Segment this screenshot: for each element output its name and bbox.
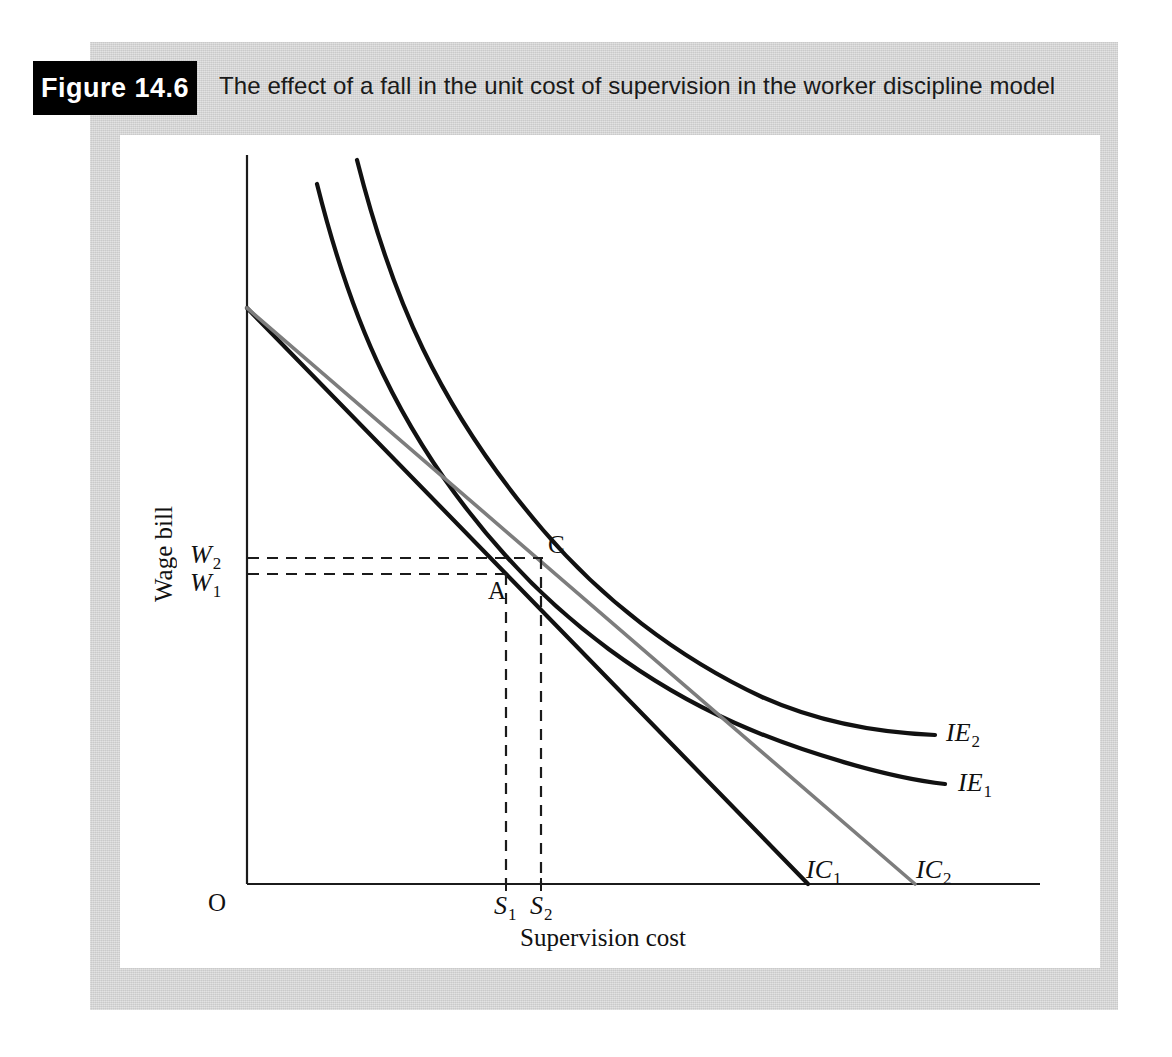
curve-label-ie1-sub: 1: [983, 782, 993, 801]
figure-number-label: Figure 14.6: [41, 73, 189, 104]
x-tick-label-s2-sub: 2: [543, 905, 553, 924]
y-tick-label-w1-sub: 1: [212, 582, 222, 601]
curve-label-ie1-base: IE: [958, 768, 983, 797]
origin-label: O: [208, 889, 226, 917]
figure-container: Figure 14.6 The effect of a fall in the …: [0, 0, 1172, 1057]
curve-label-ie2-sub: 2: [971, 732, 981, 751]
point-label-a: A: [488, 577, 506, 605]
x-tick-label-s1-base: S: [494, 891, 507, 920]
y-tick-label-w1: W1: [190, 568, 221, 602]
x-tick-label-s1-sub: 1: [507, 905, 517, 924]
x-tick-label-s2: S2: [530, 891, 553, 925]
curve-label-ie2: IE2: [946, 718, 980, 752]
curve-label-ic2-sub: 2: [942, 869, 952, 888]
curve-label-ic1-base: IC: [806, 855, 832, 884]
curve-label-ic1-sub: 1: [832, 869, 842, 888]
curve-label-ic2: IC2: [916, 855, 952, 889]
x-tick-label-s1: S1: [494, 891, 517, 925]
y-tick-label-w2-base: W: [190, 540, 212, 569]
point-label-c: C: [548, 531, 565, 559]
curve-ie2: [357, 160, 935, 735]
figure-number-badge: Figure 14.6: [33, 61, 197, 115]
y-tick-label-w1-base: W: [190, 568, 212, 597]
curve-ic1: [247, 308, 808, 884]
curve-ie1: [317, 184, 945, 784]
x-tick-label-s2-base: S: [530, 891, 543, 920]
curve-label-ic1: IC1: [806, 855, 842, 889]
curve-label-ie2-base: IE: [946, 718, 971, 747]
curve-label-ie1: IE1: [958, 768, 992, 802]
x-axis-title: Supervision cost: [520, 924, 686, 952]
curve-label-ic2-base: IC: [916, 855, 942, 884]
curve-ic2: [247, 308, 915, 884]
figure-caption: The effect of a fall in the unit cost of…: [219, 72, 1055, 100]
